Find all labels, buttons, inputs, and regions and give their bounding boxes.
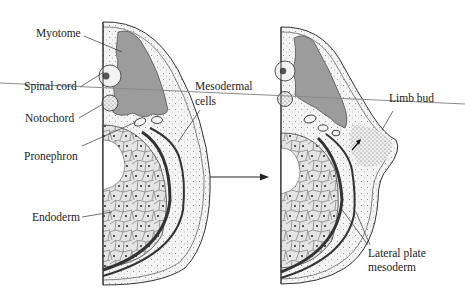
left-spinal-cord: [99, 65, 121, 87]
label-endoderm: Endoderm: [32, 211, 80, 224]
label-spinal-cord: Spinal cord: [24, 80, 77, 93]
left-notochord: [102, 95, 118, 111]
label-notochord: Notochord: [25, 112, 74, 125]
right-arrow-icon: [210, 174, 269, 181]
label-mesodermal-cells-line2: cells: [195, 95, 216, 108]
left-cross-section: [99, 22, 210, 285]
label-lateral-plate-line1: Lateral plate: [368, 247, 426, 260]
diagram-canvas: Myotome Spinal cord Notochord Pronephron…: [0, 0, 465, 293]
label-mesodermal-cells-line1: Mesodermal: [195, 80, 252, 93]
label-lateral-plate-line2: mesoderm: [368, 261, 416, 274]
right-cross-section: [275, 27, 398, 284]
label-myotome: Myotome: [36, 27, 81, 40]
right-notochord: [278, 92, 293, 107]
label-limb-bud: Limb bud: [389, 92, 434, 105]
label-pronephron: Pronephron: [24, 150, 78, 163]
